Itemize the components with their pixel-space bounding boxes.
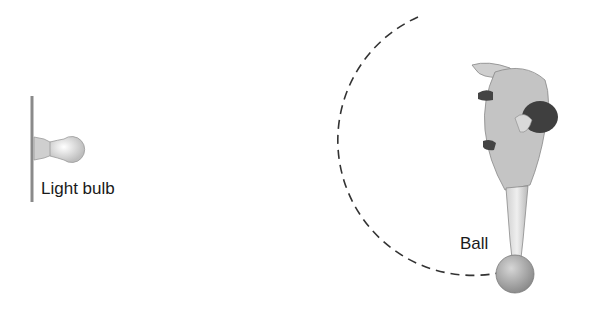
ball — [496, 255, 534, 293]
light-bulb-icon — [34, 137, 85, 163]
ball-label: Ball — [460, 234, 488, 254]
diagram-canvas — [0, 0, 593, 312]
person-figure — [472, 63, 558, 258]
light-bulb-label: Light bulb — [41, 179, 115, 199]
